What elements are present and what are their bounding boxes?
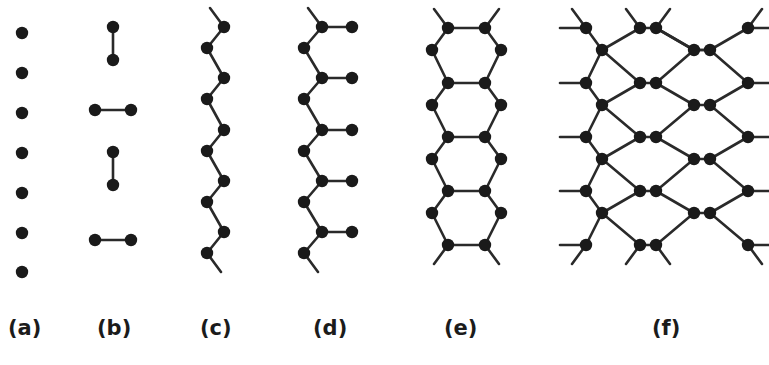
lattice-node [125,234,137,246]
lattice-bond [656,83,694,105]
panel-label-d: (d) [313,318,347,339]
lattice-node [742,77,754,89]
panel-a-node-layer [16,27,28,278]
lattice-node [742,239,754,251]
panel-d-zigzag-chain-with-pendants [298,8,358,272]
lattice-node [495,99,507,111]
lattice-node [16,147,28,159]
lattice-node [218,21,230,33]
lattice-node [346,21,358,33]
lattice-node [688,207,700,219]
lattice-node [426,207,438,219]
lattice-node [596,207,608,219]
lattice-node [316,72,328,84]
lattice-node [426,44,438,56]
lattice-node [650,239,662,251]
lattice-node [688,153,700,165]
lattice-node [298,247,310,259]
lattice-node [688,44,700,56]
lattice-node [316,21,328,33]
lattice-node [596,99,608,111]
lattice-node [218,124,230,136]
lattice-node [426,99,438,111]
lattice-node [16,266,28,278]
lattice-bond [710,83,748,105]
panel-b-node-layer [89,21,137,246]
lattice-bond [602,83,640,105]
lattice-node [298,196,310,208]
lattice-bond [602,191,640,213]
lattice-node [704,207,716,219]
lattice-bond [710,213,748,245]
lattice-bond [602,213,640,245]
lattice-bond [602,28,640,50]
lattice-node [634,131,646,143]
lattice-bond [710,137,748,159]
lattice-node [479,77,491,89]
lattice-bond [656,28,694,50]
lattice-node [742,22,754,34]
lattice-node [479,131,491,143]
lattice-node [201,42,213,54]
lattice-node [125,104,137,116]
lattice-node [16,227,28,239]
lattice-node [316,226,328,238]
lattice-node [298,42,310,54]
lattice-bond [656,191,694,213]
lattice-node [442,22,454,34]
lattice-node [580,185,592,197]
lattice-node [346,175,358,187]
lattice-node [201,247,213,259]
lattice-node [580,22,592,34]
lattice-node [107,21,119,33]
lattice-node [346,124,358,136]
lattice-bond [710,159,748,191]
lattice-node [442,185,454,197]
lattice-bond [656,137,694,159]
panel-label-e: (e) [444,318,477,339]
panel-label-c: (c) [200,318,232,339]
panel-d-node-layer [298,21,358,259]
lattice-node [316,124,328,136]
lattice-node [479,239,491,251]
lattice-node [495,153,507,165]
lattice-node [442,77,454,89]
lattice-node [442,239,454,251]
lattice-node [298,93,310,105]
lattice-node [650,185,662,197]
lattice-node [479,185,491,197]
lattice-node [634,77,646,89]
lattice-node [596,44,608,56]
panel-label-f: (f) [652,318,680,339]
lattice-node [89,104,101,116]
lattice-node [426,153,438,165]
lattice-node [704,99,716,111]
panel-f-honeycomb-lattice [560,9,769,264]
lattice-bond [710,28,748,50]
lattice-node [16,187,28,199]
lattice-bond [710,50,748,83]
lattice-node [218,72,230,84]
lattice-bond [656,213,694,245]
lattice-node [107,54,119,66]
lattice-node [650,131,662,143]
lattice-node [650,77,662,89]
lattice-bond [656,159,694,191]
lattice-node [16,67,28,79]
lattice-node [201,145,213,157]
lattice-node [704,153,716,165]
lattice-node [316,175,328,187]
lattice-node [742,131,754,143]
lattice-node [218,175,230,187]
lattice-node [634,22,646,34]
lattice-bond [602,159,640,191]
lattice-node [704,44,716,56]
lattice-node [495,207,507,219]
lattice-node [580,77,592,89]
lattice-node [580,131,592,143]
lattice-node [495,44,507,56]
panel-label-b: (b) [97,318,131,339]
lattice-node [650,22,662,34]
lattice-node [442,131,454,143]
lattice-node [201,93,213,105]
